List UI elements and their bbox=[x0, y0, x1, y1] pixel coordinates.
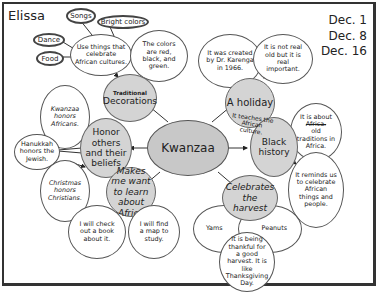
node-thankful: It is being thankful for a good harvest.… bbox=[219, 232, 275, 292]
decorations-label-line2: Decorations bbox=[103, 96, 157, 106]
node-colors: The colors are red, black, and green. bbox=[130, 30, 188, 82]
date-item: Dec. 1 bbox=[321, 13, 367, 29]
node-check-out-book: I will check out a book about it. bbox=[68, 205, 126, 259]
node-celebrate-cultures: Use things that celebrate African cultur… bbox=[70, 34, 132, 76]
pill-food: Food bbox=[36, 51, 64, 66]
pill-songs: Songs bbox=[66, 8, 96, 24]
date-item: Dec. 16 bbox=[321, 44, 367, 60]
pill-dance: Dance bbox=[33, 33, 65, 47]
node-real-important: It is not real old but it is real import… bbox=[253, 34, 313, 84]
date-list: Dec. 1 Dec. 8 Dec. 16 bbox=[321, 13, 367, 60]
node-kwanzaa-center: Kwanzaa bbox=[147, 120, 229, 176]
node-celebrates-harvest: Celebrates the harvest bbox=[222, 175, 278, 221]
pill-bright-colors: Bright colors bbox=[97, 15, 149, 29]
node-traditional-decorations: Traditional Decorations bbox=[103, 74, 157, 122]
date-item: Dec. 8 bbox=[321, 29, 367, 45]
node-find-map: I will find a map to study. bbox=[128, 205, 180, 259]
student-name: Elissa bbox=[8, 8, 45, 23]
about-suffix: old traditions in Africa. bbox=[295, 128, 337, 150]
